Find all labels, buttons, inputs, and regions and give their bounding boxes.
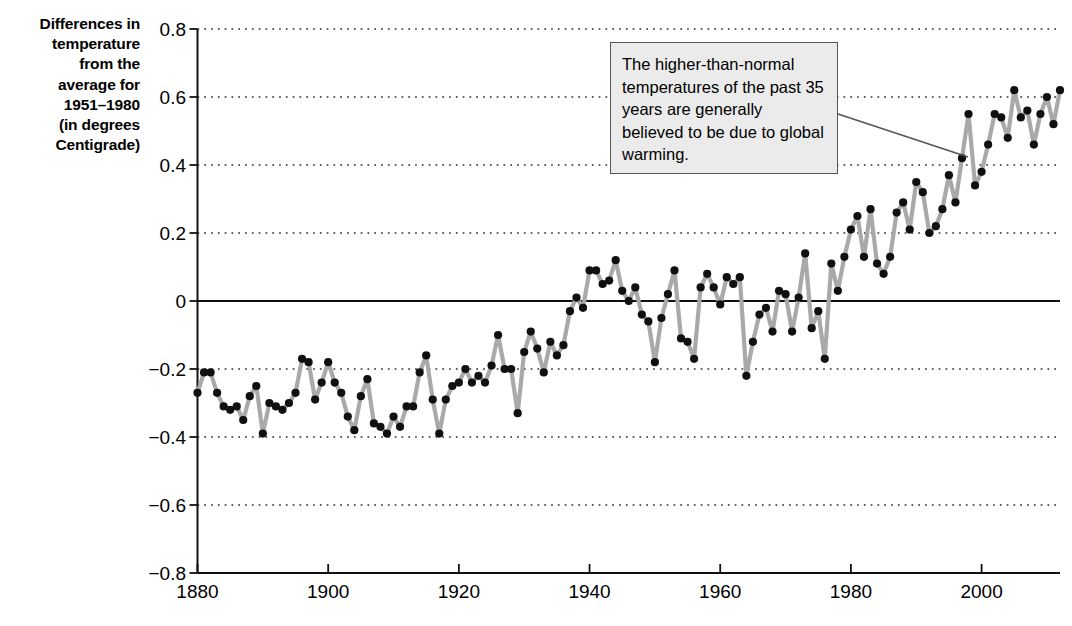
data-point bbox=[886, 253, 894, 261]
data-point bbox=[442, 396, 450, 404]
y-tick-minus0.2: −0.2 bbox=[132, 360, 186, 379]
y-axis-caption-line-5: (in degrees bbox=[0, 115, 140, 135]
x-tick-1940: 1940 bbox=[550, 582, 630, 601]
data-point bbox=[912, 178, 920, 186]
data-point bbox=[278, 406, 286, 414]
data-point bbox=[304, 358, 312, 366]
data-point bbox=[193, 389, 201, 397]
x-tick-1880: 1880 bbox=[158, 582, 238, 601]
data-point bbox=[422, 351, 430, 359]
y-tick-0.2: 0.2 bbox=[132, 224, 186, 243]
y-axis-caption-line-3: average for bbox=[0, 75, 140, 95]
data-point bbox=[932, 222, 940, 230]
data-point bbox=[984, 141, 992, 149]
data-point bbox=[1030, 141, 1038, 149]
data-point bbox=[416, 368, 424, 376]
x-tick-1980: 1980 bbox=[811, 582, 891, 601]
data-point bbox=[625, 297, 633, 305]
data-point bbox=[337, 389, 345, 397]
data-point bbox=[546, 338, 554, 346]
data-point bbox=[376, 423, 384, 431]
data-point bbox=[435, 430, 443, 438]
data-point bbox=[781, 290, 789, 298]
data-point bbox=[977, 168, 985, 176]
data-point bbox=[213, 389, 221, 397]
data-point bbox=[997, 113, 1005, 121]
data-point bbox=[657, 314, 665, 322]
data-point bbox=[553, 351, 561, 359]
data-point bbox=[906, 226, 914, 234]
data-point bbox=[1049, 120, 1057, 128]
x-tick-2000: 2000 bbox=[942, 582, 1022, 601]
x-tick-1960: 1960 bbox=[680, 582, 760, 601]
data-point bbox=[879, 270, 887, 278]
data-point bbox=[919, 188, 927, 196]
data-point bbox=[768, 328, 776, 336]
data-point bbox=[847, 226, 855, 234]
data-point bbox=[703, 270, 711, 278]
y-tick-minus0.4: −0.4 bbox=[132, 428, 186, 447]
data-point bbox=[455, 379, 463, 387]
data-point bbox=[853, 212, 861, 220]
data-point bbox=[808, 324, 816, 332]
y-axis-caption-line-6: Centigrade) bbox=[0, 135, 140, 155]
data-point bbox=[1023, 107, 1031, 115]
data-point bbox=[814, 307, 822, 315]
data-point bbox=[866, 205, 874, 213]
data-point bbox=[723, 273, 731, 281]
callout-box: The higher-than-normal temperatures of t… bbox=[610, 42, 838, 174]
data-point bbox=[291, 389, 299, 397]
data-point bbox=[357, 392, 365, 400]
data-point bbox=[206, 368, 214, 376]
data-point bbox=[801, 249, 809, 257]
y-tick-0.6: 0.6 bbox=[132, 88, 186, 107]
data-point bbox=[540, 368, 548, 376]
data-point bbox=[631, 283, 639, 291]
data-point bbox=[893, 209, 901, 217]
y-tick-0.4: 0.4 bbox=[132, 156, 186, 175]
y-axis-caption-line-4: 1951–1980 bbox=[0, 95, 140, 115]
data-point bbox=[651, 358, 659, 366]
data-point bbox=[716, 300, 724, 308]
data-point bbox=[481, 379, 489, 387]
data-point bbox=[559, 341, 567, 349]
data-point bbox=[834, 287, 842, 295]
temperature-anomaly-chart: Differences intemperaturefrom theaverage… bbox=[0, 0, 1072, 626]
y-tick-0.8: 0.8 bbox=[132, 20, 186, 39]
data-point bbox=[1043, 93, 1051, 101]
data-point bbox=[670, 266, 678, 274]
data-point bbox=[1036, 110, 1044, 118]
data-point bbox=[592, 266, 600, 274]
data-point bbox=[736, 273, 744, 281]
data-point bbox=[945, 171, 953, 179]
data-point bbox=[233, 402, 241, 410]
data-point bbox=[239, 416, 247, 424]
data-point bbox=[860, 253, 868, 261]
data-point bbox=[487, 362, 495, 370]
data-point bbox=[710, 283, 718, 291]
data-point bbox=[605, 277, 613, 285]
data-point bbox=[1004, 134, 1012, 142]
data-point bbox=[951, 198, 959, 206]
data-point bbox=[409, 402, 417, 410]
data-point bbox=[638, 311, 646, 319]
data-point bbox=[383, 430, 391, 438]
data-point bbox=[840, 253, 848, 261]
data-point bbox=[1056, 86, 1064, 94]
data-point bbox=[899, 198, 907, 206]
data-point bbox=[618, 287, 626, 295]
x-tick-1920: 1920 bbox=[419, 582, 499, 601]
data-point bbox=[795, 294, 803, 302]
data-point bbox=[697, 283, 705, 291]
y-tick-minus0.6: −0.6 bbox=[132, 496, 186, 515]
data-point bbox=[971, 181, 979, 189]
data-point bbox=[429, 396, 437, 404]
data-point bbox=[1010, 86, 1018, 94]
data-point bbox=[749, 338, 757, 346]
callout-leader-line bbox=[838, 114, 968, 157]
data-point bbox=[938, 205, 946, 213]
data-point bbox=[827, 260, 835, 268]
data-point bbox=[246, 392, 254, 400]
y-axis-caption-line-2: from the bbox=[0, 54, 140, 74]
x-tick-1900: 1900 bbox=[288, 582, 368, 601]
